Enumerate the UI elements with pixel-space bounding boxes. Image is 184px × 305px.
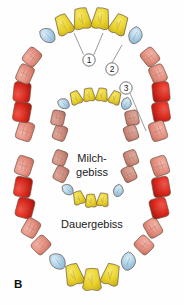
tooth-molar (147, 119, 168, 142)
tooth-molar (13, 154, 34, 177)
callout-leader-line (74, 33, 84, 55)
tooth-incisor (52, 12, 76, 37)
tooth-incisor (100, 262, 123, 287)
panel-label: B (14, 278, 22, 290)
tooth-incisor (96, 192, 110, 207)
tooth-incisor (91, 7, 112, 31)
tooth-canine (38, 25, 58, 46)
tooth-molar (13, 176, 33, 199)
tooth-molar (51, 149, 68, 168)
dentition-svg: 123 Milch- gebiss Dauergebiss B (0, 0, 184, 305)
tooth-molar (14, 196, 36, 220)
tooth-incisor (107, 12, 131, 37)
dentition-figure: 123 Milch- gebiss Dauergebiss B (0, 0, 184, 305)
tooth-incisor (71, 190, 86, 206)
tooth-incisor (83, 268, 102, 290)
tooth-molar (13, 81, 32, 103)
callout-number-2: 2 (110, 64, 115, 74)
teeth-layer (12, 7, 171, 291)
label-milchgebiss-line1: Milch- (77, 152, 107, 164)
tooth-canine (60, 182, 75, 198)
tooth-molar (12, 101, 32, 124)
tooth-incisor (68, 89, 84, 106)
tooth-molar (151, 101, 171, 124)
tooth-premolar (20, 216, 42, 239)
tooth-molar (148, 196, 170, 220)
tooth-molar (50, 109, 66, 126)
tooth-molar (122, 149, 139, 168)
label-dauergebiss: Dauergebiss (61, 218, 123, 230)
tooth-molar (124, 109, 140, 126)
callout-number-3: 3 (124, 83, 129, 93)
tooth-molar (120, 164, 138, 183)
tooth-canine (111, 183, 126, 199)
tooth-canine (119, 96, 134, 112)
tooth-molar (51, 124, 68, 143)
tooth-canine (118, 250, 139, 272)
tooth-molar (151, 176, 171, 199)
tooth-molar (52, 164, 70, 183)
tooth-canine (47, 250, 68, 272)
tooth-incisor (85, 194, 98, 208)
tooth-incisor (71, 7, 92, 31)
tooth-canine (56, 96, 71, 112)
tooth-incisor (62, 262, 85, 287)
tooth-molar (122, 124, 139, 143)
tooth-molar (149, 154, 170, 177)
tooth-incisor (95, 87, 109, 102)
tooth-canine (125, 25, 145, 46)
callout-number-1: 1 (87, 55, 92, 65)
tooth-molar (152, 81, 171, 103)
callout-leader-line (94, 33, 104, 56)
callout-leader-line (112, 45, 122, 63)
label-milchgebiss-line2: gebiss (76, 166, 108, 178)
tooth-incisor (82, 87, 96, 102)
